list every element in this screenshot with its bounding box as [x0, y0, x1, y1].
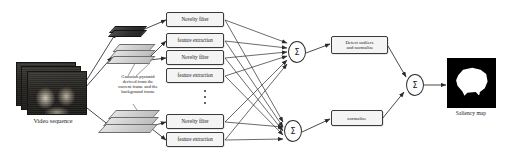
saliency-map-caption: Saliency map — [437, 110, 505, 116]
box-novelty-filter-top[interactable]: Novelty filter — [166, 12, 224, 27]
box-feature-extraction-top[interactable]: feature extraction — [166, 33, 224, 48]
box-label: Novelty filter — [181, 119, 208, 124]
video-sequence-stack — [16, 62, 86, 114]
sigma-symbol: Σ — [412, 81, 417, 90]
video-frame-front — [27, 71, 87, 115]
pyramid-top — [104, 25, 148, 39]
sigma-node-top[interactable]: Σ — [288, 41, 306, 63]
annotation-line-4: background frame — [96, 89, 180, 94]
box-feature-extraction-bottom[interactable]: feature extraction — [166, 132, 224, 147]
box-novelty-filter-middle[interactable]: Novelty filter — [166, 50, 224, 65]
box-label: normalize — [348, 116, 367, 121]
box-label: feature extraction — [177, 73, 212, 78]
pyramid-bottom — [96, 110, 160, 138]
sigma-node-bottom[interactable]: Σ — [284, 120, 302, 142]
box-novelty-filter-bottom[interactable]: Novelty filter — [166, 114, 224, 129]
vertical-ellipsis-icon — [203, 90, 207, 104]
box-label: Novelty filter — [181, 17, 208, 22]
saliency-blob — [454, 66, 489, 97]
diagram-canvas: Video sequence Gaussian pyramid derived … — [0, 0, 505, 163]
box-label: Novelty filter — [181, 55, 208, 60]
box-normalize[interactable]: normalize — [331, 110, 383, 126]
sigma-node-final[interactable]: Σ — [406, 74, 424, 96]
pyramid-middle — [104, 44, 156, 66]
box-feature-extraction-middle[interactable]: feature extraction — [166, 68, 224, 83]
box-label-line-2: and normalize — [346, 45, 373, 50]
saliency-map-image — [447, 58, 496, 108]
box-label: feature extraction — [177, 137, 212, 142]
box-detect-outliers-and-normalize[interactable]: Detect outliers and normalize — [331, 36, 388, 54]
video-sequence-caption: Video sequence — [10, 117, 96, 124]
sigma-symbol: Σ — [290, 127, 295, 136]
box-label: feature extraction — [177, 38, 212, 43]
sigma-symbol: Σ — [294, 48, 299, 57]
